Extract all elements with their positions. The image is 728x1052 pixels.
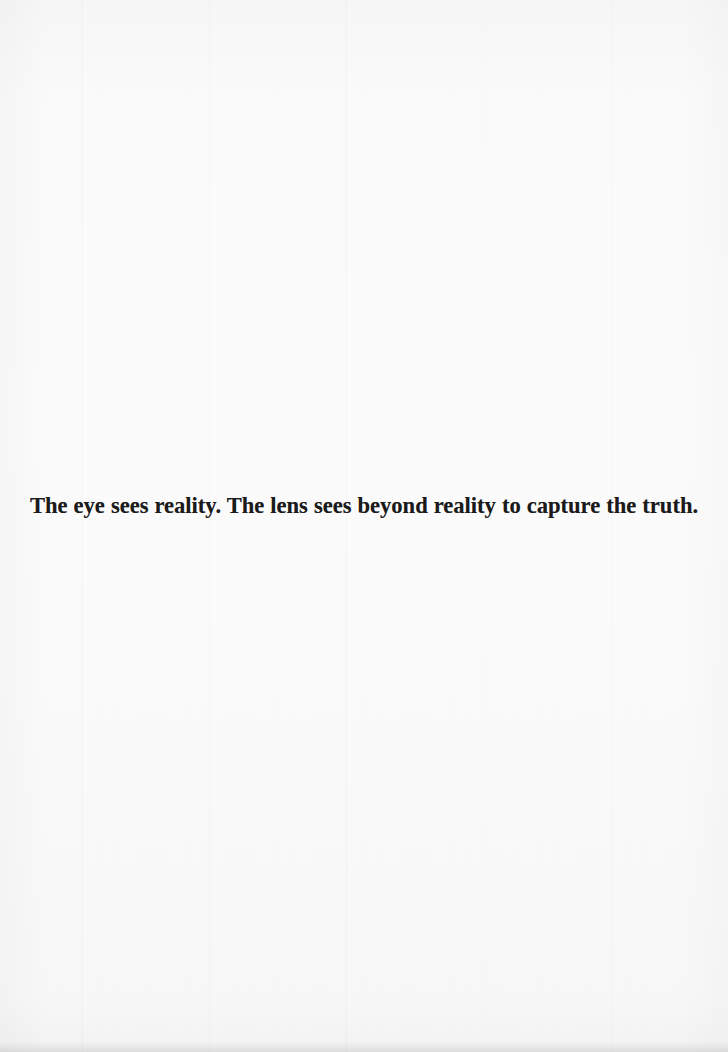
scanned-page: The eye sees reality. The lens sees beyo… [0, 0, 728, 1052]
scan-streak-line [209, 0, 210, 1052]
quote-text: The eye sees reality. The lens sees beyo… [30, 491, 698, 521]
quote-block: The eye sees reality. The lens sees beyo… [0, 489, 728, 523]
scan-streak-line [611, 0, 612, 1052]
scan-streak-line [482, 0, 483, 1052]
page-bottom-edge-shadow [0, 1040, 728, 1052]
paper-background [0, 0, 728, 1052]
scan-streak-line [346, 0, 347, 1052]
scan-streak-line [82, 0, 83, 1052]
scan-streak-texture [0, 0, 728, 1052]
page-vignette [0, 0, 728, 1052]
